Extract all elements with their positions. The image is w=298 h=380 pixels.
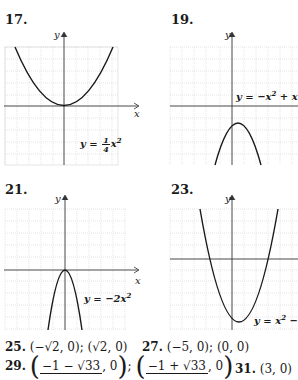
answer-27-text: (−5, 0); (0, 0) <box>167 340 249 354</box>
graph-21 <box>0 195 145 330</box>
graph-17-plot <box>0 30 145 165</box>
exercise-19-number: 19. <box>171 12 194 27</box>
fraction-numerator: −1 − √33 <box>40 359 102 374</box>
eq-rhs: − x − <box>286 315 298 326</box>
eq-lhs: y = −2x <box>84 293 126 304</box>
semicolon: ; <box>128 359 132 373</box>
graph-23-y-label: y <box>225 193 231 204</box>
graph-17-equation: y = 14x2 <box>80 136 122 153</box>
answer-29-fraction-1: −1 − √33 <box>40 359 102 374</box>
graph-21-equation: y = −2x2 <box>84 291 131 304</box>
answer-29-label: 29. <box>5 359 26 373</box>
eq-exp: 2 <box>117 136 122 145</box>
answer-29-tail-2: , 0 <box>208 359 223 373</box>
eq-exp: 2 <box>126 291 131 300</box>
answer-29: 29. (−1 − √33, 0); (−1 + √33, 0) <box>5 356 233 376</box>
graph-19-equation: y = −x2 + x − 1 <box>236 89 298 102</box>
fraction-numerator: −1 + √33 <box>146 359 208 374</box>
graph-17 <box>0 30 145 165</box>
answer-31: 31. (3, 0) <box>235 362 292 376</box>
frac-den: 4 <box>102 145 110 153</box>
graph-21-plot <box>0 195 145 330</box>
answer-29-tail-1: , 0 <box>102 359 117 373</box>
eq-lhs: y = x <box>254 315 281 326</box>
answer-29-fraction-2: −1 + √33 <box>146 359 208 374</box>
graph-21-x-label: x <box>135 275 141 286</box>
fraction: 14 <box>102 136 110 153</box>
graph-23-equation: y = x2 − x − <box>254 313 298 326</box>
open-paren: ( <box>30 351 40 380</box>
graph-21-y-label: y <box>55 193 61 204</box>
graph-23 <box>166 195 298 330</box>
eq-rhs: + x − 1 <box>276 91 298 102</box>
answer-25-label: 25. <box>5 340 26 354</box>
graph-23-plot <box>166 195 298 330</box>
graph-17-x-label: x <box>134 108 140 119</box>
answer-25: 25. (−√2, 0); (√2, 0) <box>5 340 127 354</box>
eq-lhs: y = <box>80 138 101 149</box>
eq-lhs: y = −x <box>236 91 272 102</box>
graph-19-y-label: y <box>225 29 231 40</box>
exercise-17-number: 17. <box>5 12 28 27</box>
open-paren: ( <box>135 351 145 380</box>
graph-17-y-label: y <box>54 29 60 40</box>
answer-31-label: 31. <box>235 362 256 376</box>
close-paren: ) <box>223 351 233 380</box>
answer-31-text: (3, 0) <box>260 362 292 376</box>
answer-25-text: (−√2, 0); (√2, 0) <box>30 340 128 354</box>
close-paren: ) <box>117 351 127 380</box>
